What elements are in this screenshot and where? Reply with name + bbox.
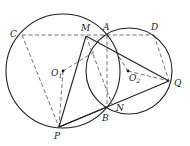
label-o1: O1 [51, 68, 62, 79]
segment-mn [86, 36, 112, 104]
label-c: C [10, 29, 17, 39]
label-d: D [150, 22, 158, 32]
geometry-diagram: C M A D O1 O2 Q N B P [0, 0, 190, 146]
point-o2-dot [127, 70, 130, 73]
label-b: B [101, 113, 109, 123]
label-a: A [102, 22, 110, 32]
label-o2: O2 [129, 73, 140, 84]
label-n: N [115, 103, 125, 113]
segment-cp [22, 35, 59, 127]
label-p: P [53, 131, 61, 141]
segment-mp [59, 36, 86, 127]
label-m: M [80, 23, 91, 33]
label-q: Q [174, 78, 182, 88]
